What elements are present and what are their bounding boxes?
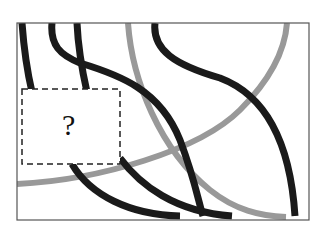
dark-curve-1b	[72, 164, 180, 216]
dark-curve-1	[22, 23, 32, 92]
dark-curve-3	[77, 23, 87, 92]
puzzle-figure	[0, 0, 326, 232]
question-mark: ?	[62, 108, 75, 142]
